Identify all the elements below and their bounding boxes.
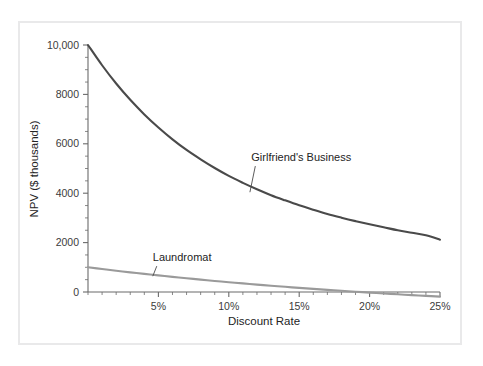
x-axis-tick-labels: 5%10%15%20%25% (151, 300, 451, 312)
series-line-girlfriends-business (88, 45, 440, 240)
chart-plot-area: 0200040006000800010,000 5%10%15%20%25% G… (0, 0, 483, 366)
x-tick-label: 20% (359, 300, 380, 312)
chart-figure: 0200040006000800010,000 5%10%15%20%25% G… (0, 0, 483, 366)
x-tick-label: 10% (218, 300, 239, 312)
y-tick-label: 2000 (56, 236, 80, 248)
y-tick-label: 10,000 (47, 39, 79, 51)
y-tick-label: 0 (73, 286, 79, 298)
y-tick-label: 4000 (56, 187, 80, 199)
x-tick-label: 15% (289, 300, 310, 312)
x-tick-label: 25% (429, 300, 450, 312)
y-axis-ticks (83, 45, 88, 292)
y-axis-tick-labels: 0200040006000800010,000 (47, 39, 79, 298)
y-axis-title: NPV ($ thousands) (28, 120, 40, 217)
series-label-girlfriends-business: Girlfriend's Business (251, 151, 351, 163)
y-tick-label: 8000 (56, 88, 80, 100)
x-axis-title: Discount Rate (228, 315, 300, 327)
y-tick-label: 6000 (56, 137, 80, 149)
x-tick-label: 5% (151, 300, 166, 312)
series-label-laundromat: Laundromat (153, 251, 212, 263)
